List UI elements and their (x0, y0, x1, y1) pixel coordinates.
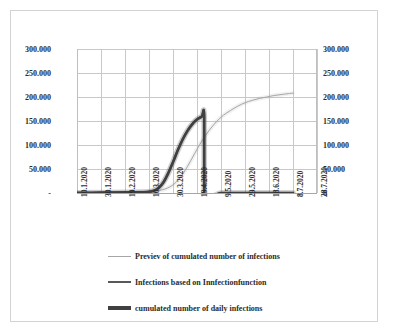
chart-container: -50.000100.000150.000200.000250.000300.0… (0, 0, 394, 332)
legend-swatch-2 (108, 306, 131, 310)
x-tick-0: 10.1.2020 (81, 167, 89, 197)
chart-frame: -50.000100.000150.000200.000250.000300.0… (10, 10, 378, 322)
legend-swatch-1 (108, 281, 131, 284)
x-tick-2: 19.2.2020 (129, 167, 137, 197)
series-lines (77, 49, 317, 193)
x-tick-10: 28.7.2020 (321, 167, 329, 197)
y-tick-right-250000: 250.000 (323, 69, 349, 78)
legend-swatch-0 (108, 256, 131, 257)
y-tick-right-100000: 100.000 (323, 141, 349, 150)
x-tick-3: 10.3.2020 (153, 167, 161, 197)
plot-area (77, 49, 317, 193)
y-tick-left-50000: 50.000 (29, 165, 51, 174)
y-tick-left-200000: 200.000 (25, 93, 51, 102)
legend-label-0: Previev of cumulated number of infection… (135, 252, 280, 261)
gridline-h-0 (77, 193, 317, 194)
y-tick-left-100000: 100.000 (25, 141, 51, 150)
legend-entry-1[interactable]: Infections based on Innfectionfunction (108, 275, 266, 289)
x-tick-5: 19.4.2020 (201, 167, 209, 197)
legend-entry-0[interactable]: Previev of cumulated number of infection… (108, 249, 280, 263)
x-tick-4: 30.3.2020 (177, 167, 185, 197)
legend-entry-2[interactable]: cumulated number of daily infections (108, 301, 262, 315)
x-tick-7: 29.5.2020 (249, 167, 257, 197)
y-tick-left-0: - (48, 189, 51, 198)
x-tick-8: 18.6.2020 (273, 167, 281, 197)
x-tick-9: 8.7.2020 (297, 171, 305, 197)
legend-label-2: cumulated number of daily infections (135, 304, 262, 313)
y-tick-right-150000: 150.000 (323, 117, 349, 126)
x-tick-1: 30.1.2020 (105, 167, 113, 197)
legend-label-1: Infections based on Innfectionfunction (135, 278, 266, 287)
gridline-v-10 (317, 49, 318, 193)
y-tick-left-250000: 250.000 (25, 69, 51, 78)
y-tick-right-200000: 200.000 (323, 93, 349, 102)
x-tick-6: 9.5.2020 (225, 171, 233, 197)
y-tick-left-150000: 150.000 (25, 117, 51, 126)
y-tick-left-300000: 300.000 (25, 45, 51, 54)
y-tick-right-300000: 300.000 (323, 45, 349, 54)
